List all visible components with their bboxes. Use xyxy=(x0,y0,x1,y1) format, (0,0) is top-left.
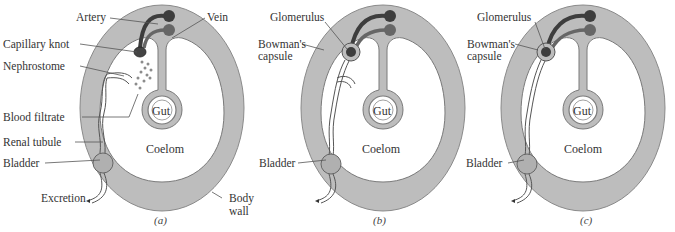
label-coelom-b: Coelom xyxy=(362,143,400,155)
label-nephrostome: Nephrostome xyxy=(3,60,65,72)
caption-c: (c) xyxy=(580,214,592,226)
label-glomerulus-c: Glomerulus xyxy=(477,11,531,23)
label-bowmans-c-2: capsule xyxy=(467,50,501,62)
label-blood-filtrate: Blood filtrate xyxy=(3,111,65,123)
label-bladder: Bladder xyxy=(3,157,39,169)
label-bladder-c: Bladder xyxy=(466,157,502,169)
label-coelom-c: Coelom xyxy=(564,143,602,155)
label-body-wall-2: wall xyxy=(229,205,249,217)
label-artery: Artery xyxy=(76,11,106,23)
label-excretion: Excretion xyxy=(41,192,86,204)
label-renal-tubule: Renal tubule xyxy=(3,136,61,148)
label-bowmans-c-1: Bowman's xyxy=(467,38,515,50)
label-gut-c: Gut xyxy=(573,105,591,117)
label-bowmans-b-1: Bowman's xyxy=(258,38,306,50)
caption-a: (a) xyxy=(154,214,167,226)
label-vein: Vein xyxy=(207,11,228,23)
label-gut: Gut xyxy=(152,105,170,117)
caption-b: (b) xyxy=(373,214,386,226)
label-gut-b: Gut xyxy=(373,105,391,117)
label-body-wall-1: Body xyxy=(229,192,254,204)
label-bowmans-b-2: capsule xyxy=(258,50,292,62)
label-capillary-knot: Capillary knot xyxy=(3,38,69,50)
label-glomerulus-b: Glomerulus xyxy=(270,11,324,23)
label-bladder-b: Bladder xyxy=(259,157,295,169)
label-coelom: Coelom xyxy=(146,143,184,155)
